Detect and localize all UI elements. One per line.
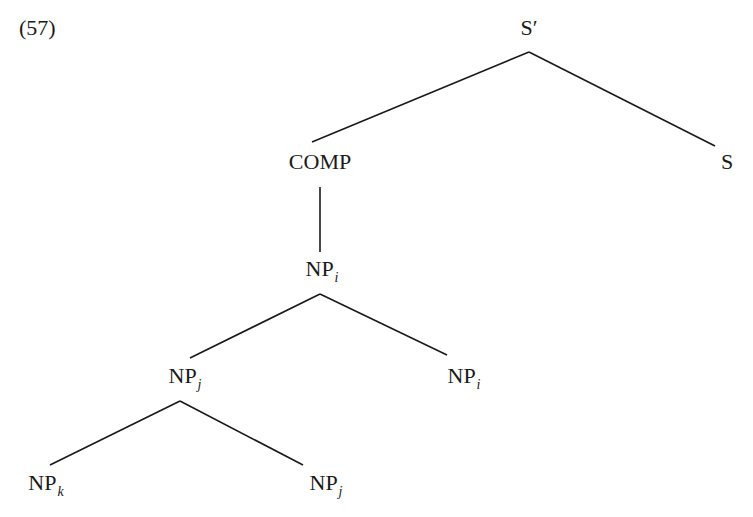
edge-npi-npj bbox=[190, 294, 320, 358]
node-np-k: NPk bbox=[28, 470, 63, 496]
node-label: S′ bbox=[520, 15, 537, 40]
edge-npj-npk bbox=[50, 401, 180, 465]
edge-npi-npi bbox=[320, 294, 447, 355]
node-np-i-right: NPi bbox=[447, 363, 480, 389]
node-label: NP bbox=[28, 470, 56, 495]
node-index: i bbox=[477, 377, 481, 392]
edge-sbar-comp bbox=[312, 52, 529, 142]
tree-edges bbox=[0, 0, 753, 517]
edge-npj-npj bbox=[180, 401, 303, 465]
node-label: NP bbox=[309, 470, 337, 495]
node-label: COMP bbox=[289, 149, 351, 174]
edge-sbar-s bbox=[529, 52, 715, 146]
node-np-j-bottom: NPj bbox=[309, 470, 342, 496]
node-label: NP bbox=[168, 363, 196, 388]
node-label: NP bbox=[447, 363, 475, 388]
node-comp: COMP bbox=[289, 149, 351, 175]
node-index: k bbox=[57, 484, 63, 499]
node-index: i bbox=[335, 270, 339, 285]
node-index: j bbox=[339, 484, 343, 499]
node-label: NP bbox=[305, 256, 333, 281]
node-np-i-top: NPi bbox=[305, 256, 338, 282]
node-label: S bbox=[721, 149, 733, 174]
node-index: j bbox=[198, 377, 202, 392]
node-s-bar: S′ bbox=[520, 15, 537, 41]
node-s: S bbox=[721, 149, 733, 175]
node-np-j-mid: NPj bbox=[168, 363, 201, 389]
